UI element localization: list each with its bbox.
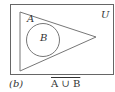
universe-rectangle (11, 5, 114, 75)
caption-part: (b) (9, 79, 23, 89)
set-a-label: A (27, 14, 34, 24)
caption-expression: A ∪ B (51, 79, 80, 89)
universe-label: U (101, 10, 109, 20)
set-b-label: B (40, 33, 47, 43)
